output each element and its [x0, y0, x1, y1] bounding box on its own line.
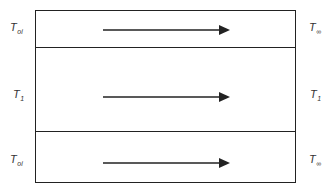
top-right-label: T∞: [309, 22, 321, 35]
top-left-label: Toi: [10, 22, 23, 35]
middle-flow-arrow-icon: [100, 91, 232, 103]
label-base: T: [13, 88, 20, 100]
label-sub: ∞: [316, 160, 321, 167]
label-base: T: [309, 153, 316, 165]
label-sub: oi: [17, 160, 22, 167]
label-sub: 1: [20, 95, 24, 102]
bottom-left-label: Toi: [10, 154, 23, 167]
label-base: T: [10, 153, 17, 165]
top-flow-arrow-icon: [100, 24, 232, 36]
label-sub: 1: [317, 95, 321, 102]
label-base: T: [10, 21, 17, 33]
label-sub: oi: [17, 28, 22, 35]
bottom-flow-arrow-icon: [100, 157, 232, 169]
bottom-layer-divider: [35, 131, 296, 132]
top-layer-divider: [35, 47, 296, 48]
label-sub: ∞: [316, 28, 321, 35]
label-base: T: [309, 21, 316, 33]
middle-right-label: T1: [310, 89, 321, 102]
middle-left-label: T1: [13, 89, 24, 102]
label-base: T: [310, 88, 317, 100]
bottom-right-label: T∞: [309, 154, 321, 167]
